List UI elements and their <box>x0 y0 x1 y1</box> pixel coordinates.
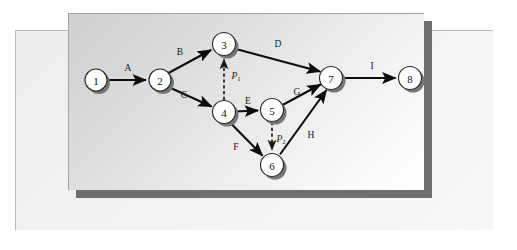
front-sheet-panel <box>68 13 424 190</box>
